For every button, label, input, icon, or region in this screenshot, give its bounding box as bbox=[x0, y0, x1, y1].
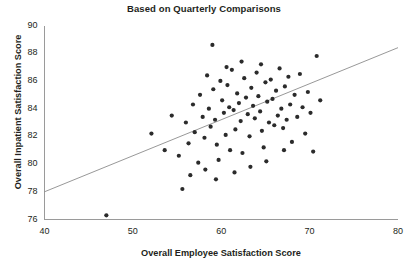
data-point bbox=[269, 77, 273, 81]
data-point bbox=[290, 140, 294, 144]
data-point bbox=[230, 68, 234, 72]
data-point bbox=[318, 98, 322, 102]
data-point bbox=[224, 133, 228, 137]
data-point bbox=[311, 150, 315, 154]
data-point bbox=[274, 89, 278, 93]
data-point bbox=[246, 112, 250, 116]
data-point bbox=[260, 129, 264, 133]
data-point bbox=[288, 102, 292, 106]
data-point bbox=[308, 111, 312, 115]
data-point bbox=[205, 73, 209, 77]
data-point bbox=[270, 97, 274, 101]
data-point bbox=[277, 66, 281, 70]
data-point bbox=[248, 165, 252, 169]
data-point bbox=[249, 86, 253, 90]
data-point bbox=[211, 87, 215, 91]
data-point bbox=[237, 101, 241, 105]
data-point bbox=[255, 71, 259, 75]
data-point bbox=[239, 59, 243, 63]
data-point bbox=[163, 148, 167, 152]
data-point bbox=[203, 168, 207, 172]
data-point bbox=[265, 100, 269, 104]
data-point bbox=[244, 95, 248, 99]
data-point bbox=[215, 143, 219, 147]
data-point bbox=[196, 161, 200, 165]
data-point bbox=[217, 158, 221, 162]
data-point bbox=[213, 118, 217, 122]
data-point bbox=[239, 119, 243, 123]
data-point bbox=[272, 123, 276, 127]
data-point bbox=[263, 80, 267, 84]
data-point bbox=[283, 84, 287, 88]
data-point bbox=[228, 148, 232, 152]
data-point bbox=[276, 113, 280, 117]
data-point bbox=[220, 98, 224, 102]
data-point bbox=[209, 125, 213, 129]
data-point bbox=[286, 75, 290, 79]
data-point bbox=[279, 107, 283, 111]
data-point bbox=[298, 72, 302, 76]
data-point bbox=[104, 213, 108, 217]
data-point bbox=[222, 111, 226, 115]
data-point bbox=[242, 76, 246, 80]
data-point bbox=[251, 104, 255, 108]
data-point bbox=[188, 173, 192, 177]
data-point bbox=[232, 170, 236, 174]
data-point bbox=[267, 120, 271, 124]
data-point-group bbox=[104, 43, 322, 218]
data-point bbox=[184, 120, 188, 124]
data-point bbox=[210, 43, 214, 47]
axis-lines bbox=[45, 26, 399, 220]
data-point bbox=[218, 79, 222, 83]
data-point bbox=[233, 127, 237, 131]
data-point bbox=[293, 93, 297, 97]
trend-line bbox=[45, 48, 399, 192]
trend-line-group bbox=[45, 48, 399, 192]
data-point bbox=[227, 105, 231, 109]
data-point bbox=[170, 113, 174, 117]
data-point bbox=[198, 93, 202, 97]
data-point bbox=[262, 145, 266, 149]
data-point bbox=[315, 54, 319, 58]
data-point bbox=[225, 83, 229, 87]
data-point bbox=[232, 108, 236, 112]
data-point bbox=[259, 62, 263, 66]
scatter-chart-figure: Based on Quarterly Comparisons Overall I… bbox=[0, 0, 408, 269]
data-point bbox=[180, 187, 184, 191]
data-point bbox=[303, 131, 307, 135]
data-point bbox=[201, 115, 205, 119]
data-point bbox=[149, 131, 153, 135]
plot-area bbox=[0, 0, 408, 269]
data-point bbox=[285, 118, 289, 122]
data-point bbox=[247, 134, 251, 138]
data-point bbox=[258, 109, 262, 113]
data-point bbox=[202, 136, 206, 140]
data-point bbox=[207, 107, 211, 111]
data-point bbox=[306, 90, 310, 94]
data-point bbox=[295, 115, 299, 119]
data-point bbox=[186, 141, 190, 145]
data-point bbox=[224, 65, 228, 69]
data-point bbox=[191, 102, 195, 106]
data-point bbox=[253, 116, 257, 120]
data-point bbox=[214, 177, 218, 181]
data-point bbox=[281, 126, 285, 130]
data-point bbox=[193, 130, 197, 134]
data-point bbox=[177, 154, 181, 158]
data-point bbox=[282, 148, 286, 152]
data-point bbox=[235, 91, 239, 95]
data-point bbox=[240, 151, 244, 155]
data-point bbox=[300, 105, 304, 109]
data-point bbox=[264, 159, 268, 163]
data-point bbox=[256, 94, 260, 98]
